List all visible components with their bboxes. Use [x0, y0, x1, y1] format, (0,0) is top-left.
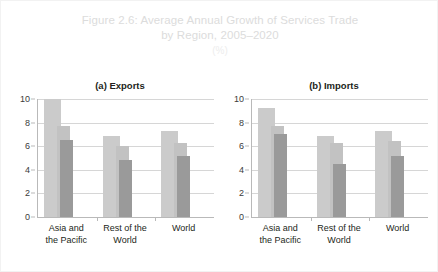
panel-exports-y-axis: 0246810 [9, 99, 35, 217]
y-tick-label: 8 [25, 118, 30, 128]
bar [333, 164, 346, 217]
x-tick-mark [311, 217, 312, 221]
panel-exports: (a) Exports 0246810 Asia and the Pacific… [9, 79, 217, 269]
panel-imports-y-axis: 0246810 [223, 99, 249, 217]
y-tick-label: 2 [239, 188, 244, 198]
category-label: Asia and the Pacific [46, 223, 88, 246]
y-tick-mark [245, 122, 249, 123]
y-tick-label: 0 [239, 212, 244, 222]
y-tick-mark [31, 122, 35, 123]
category-label: Rest of the World [317, 223, 361, 246]
x-tick-mark [155, 217, 156, 221]
category-label: Rest of the World [103, 223, 147, 246]
bar-group [97, 99, 156, 217]
bar-group [155, 99, 214, 217]
y-tick-mark [245, 217, 249, 218]
bar [119, 160, 132, 217]
y-tick-label: 0 [25, 212, 30, 222]
y-tick-label: 6 [239, 141, 244, 151]
y-tick-mark [31, 146, 35, 147]
bar [60, 140, 73, 217]
y-tick-mark [31, 217, 35, 218]
x-tick-mark [97, 217, 98, 221]
x-tick-mark [369, 217, 370, 221]
panel-exports-plot: 0246810 Asia and the PacificRest of the … [9, 99, 217, 227]
y-tick-label: 8 [239, 118, 244, 128]
bar-group [252, 99, 311, 217]
figure-container: Figure 2.6: Average Annual Growth of Ser… [0, 0, 438, 272]
y-tick-mark [31, 169, 35, 170]
panel-imports-plot-area [251, 99, 428, 218]
category-label: World [386, 223, 409, 235]
y-tick-mark [31, 99, 35, 100]
y-tick-mark [245, 193, 249, 194]
figure-title-line-1: Figure 2.6: Average Annual Growth of Ser… [1, 13, 438, 28]
y-tick-label: 6 [25, 141, 30, 151]
panel-exports-title: (a) Exports [23, 79, 217, 93]
panel-imports-plot: 0246810 Asia and the PacificRest of the … [223, 99, 431, 227]
panel-imports: (b) Imports 0246810 Asia and the Pacific… [223, 79, 431, 269]
bar-group [311, 99, 370, 217]
figure-title-block: Figure 2.6: Average Annual Growth of Ser… [1, 13, 438, 58]
panel-imports-x-axis: Asia and the PacificRest of the WorldWor… [251, 223, 427, 257]
bar [177, 156, 190, 217]
y-tick-mark [31, 193, 35, 194]
category-label: Asia and the Pacific [260, 223, 302, 246]
panel-exports-plot-area [37, 99, 214, 218]
bar-group [38, 99, 97, 217]
bar-group [369, 99, 428, 217]
figure-unit-label: (%) [1, 44, 438, 58]
y-tick-mark [245, 146, 249, 147]
category-label: World [172, 223, 195, 235]
panel-exports-x-axis: Asia and the PacificRest of the WorldWor… [37, 223, 213, 257]
y-tick-label: 10 [234, 94, 244, 104]
y-tick-mark [245, 169, 249, 170]
panel-imports-title: (b) Imports [237, 79, 431, 93]
bar [391, 156, 404, 217]
y-tick-label: 4 [239, 165, 244, 175]
y-tick-mark [245, 99, 249, 100]
y-tick-label: 4 [25, 165, 30, 175]
bar [274, 134, 287, 217]
figure-title-line-2: by Region, 2005–2020 [1, 28, 438, 43]
y-tick-label: 2 [25, 188, 30, 198]
y-tick-label: 10 [20, 94, 30, 104]
